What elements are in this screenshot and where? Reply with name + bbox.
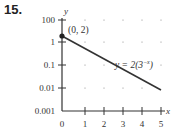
x-axis-label: x bbox=[165, 106, 170, 116]
svg-text:0.01: 0.01 bbox=[39, 83, 55, 93]
svg-text:5: 5 bbox=[159, 119, 164, 129]
x-tick-labels: 0 1 2 3 4 5 bbox=[60, 119, 164, 129]
log-plot: 100 1 0.1 0.01 0.001 0 1 2 3 4 5 y x (0,… bbox=[0, 0, 171, 135]
equation-label: y = 2(3−x) bbox=[114, 59, 153, 71]
svg-text:0.1: 0.1 bbox=[44, 60, 55, 70]
svg-text:0.001: 0.001 bbox=[35, 106, 55, 116]
svg-text:3: 3 bbox=[121, 119, 126, 129]
svg-text:100: 100 bbox=[42, 15, 56, 25]
svg-text:4: 4 bbox=[140, 119, 145, 129]
y-axis-label: y bbox=[63, 6, 68, 16]
svg-text:1: 1 bbox=[51, 37, 56, 47]
start-point bbox=[59, 33, 64, 38]
svg-text:2: 2 bbox=[102, 119, 107, 129]
svg-text:1: 1 bbox=[83, 119, 88, 129]
svg-text:0: 0 bbox=[60, 119, 65, 129]
point-label: (0, 2) bbox=[68, 25, 89, 36]
y-tick-labels: 100 1 0.1 0.01 0.001 bbox=[35, 15, 56, 116]
